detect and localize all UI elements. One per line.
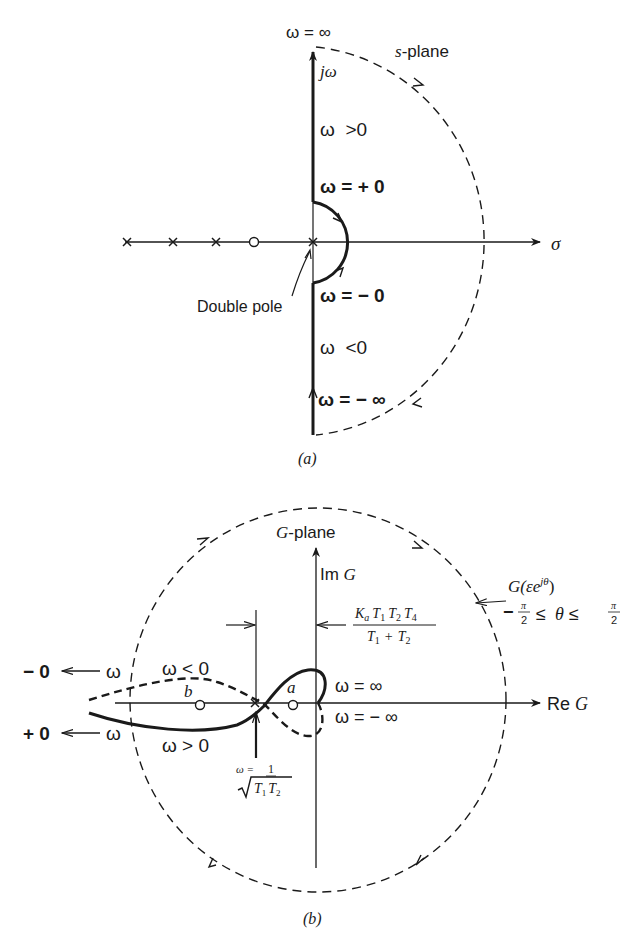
svg-text:π: π [611, 600, 617, 611]
omega-greater-zero-label: ω > 0 [162, 735, 209, 756]
svg-text:ω =: ω = [236, 763, 254, 775]
minus-zero-label: − 0 [23, 661, 50, 682]
svg-text:2: 2 [521, 614, 527, 626]
point-a-marker [289, 701, 298, 710]
double-pole-label: Double pole [197, 298, 283, 315]
svg-text:1: 1 [268, 762, 274, 776]
point-b-label: b [184, 682, 193, 701]
svg-text:−: − [503, 602, 514, 622]
omega-left-bottom-label: ω [106, 723, 121, 744]
omega-left-top-label: ω [106, 661, 121, 682]
nyquist-figure: σ ω = ∞ s-plane jω ω >0 ω = + 0 ω = − 0 [0, 0, 640, 952]
circle-arrow-bottom-left [209, 858, 216, 867]
svg-text:π: π [521, 600, 527, 611]
omega-infinity-label: ω = ∞ [286, 23, 331, 42]
infinite-semicircle [316, 47, 484, 435]
sigma-axis-label: σ [551, 233, 561, 254]
g-plane-label: G-plane [276, 523, 336, 542]
omega-minus-zero-label: ω = − 0 [320, 285, 385, 306]
theta-range: − π 2 ≤ θ ≤ π 2 [503, 600, 620, 626]
zero-marker [250, 238, 259, 247]
svg-text:T1T2: T1T2 [254, 781, 281, 798]
jomega-label: jω [318, 62, 337, 81]
omega-minus-infinity-label-b: ω = − ∞ [335, 707, 398, 727]
omega-less-zero-label: ω < 0 [162, 658, 209, 679]
point-b-marker [196, 701, 205, 710]
omega-plus-zero-label: ω = + 0 [320, 176, 385, 197]
re-g-label: Re G [547, 694, 588, 714]
semicircle-arrow-bottom [413, 398, 422, 407]
omega-positive-label: ω >0 [320, 119, 367, 140]
svg-text:θ: θ [555, 604, 564, 624]
point-a-label: a [287, 678, 296, 697]
im-g-label: Im G [320, 565, 356, 584]
circle-label: G(εejθ) [508, 575, 554, 596]
svg-text:≤: ≤ [536, 604, 546, 624]
omega-negative-label: ω <0 [320, 337, 367, 358]
double-pole-pointer [292, 251, 310, 296]
svg-text:T1+T2: T1+T2 [367, 629, 411, 646]
svg-text:≤: ≤ [569, 604, 579, 624]
svg-text:2: 2 [611, 614, 617, 626]
svg-text:KaT1T2T4: KaT1T2T4 [354, 606, 417, 623]
panel-a-s-plane: σ ω = ∞ s-plane jω ω >0 ω = + 0 ω = − 0 [123, 23, 561, 468]
s-plane-label: s-plane [395, 42, 449, 61]
omega-infinity-label-b: ω = ∞ [335, 676, 383, 696]
crossover-frequency-label: ω = 1 T1T2 [236, 762, 292, 798]
circle-label-pointer [476, 601, 506, 603]
omega-minus-infinity-label: ω = − ∞ [318, 389, 386, 410]
caption-b: (b) [303, 910, 322, 928]
circle-arrow-top-right [412, 541, 422, 548]
caption-a: (a) [298, 450, 317, 468]
semicircle-arrow-top [413, 78, 423, 86]
plus-zero-label: + 0 [23, 723, 50, 744]
gain-expression: KaT1T2T4 T1+T2 [353, 606, 436, 646]
panel-b-g-plane: Re G Im G G-plane KaT1T2T4 T1+T2 G(εejθ)… [23, 508, 620, 928]
circle-arrow-top-left [197, 538, 208, 545]
